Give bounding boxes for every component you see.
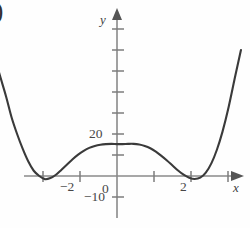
y-axis-label: y bbox=[100, 13, 106, 26]
graph-figure: ) y x 20 bbox=[0, 0, 250, 228]
y-axis-arrowhead bbox=[112, 8, 122, 20]
plot-canvas bbox=[0, 0, 250, 228]
quartic-curve bbox=[0, 50, 241, 179]
origin-label: 0 bbox=[102, 182, 109, 196]
x-axis-label: x bbox=[233, 181, 239, 194]
x-tick-label-2: 2 bbox=[180, 180, 187, 194]
y-axis-ticks bbox=[112, 29, 124, 197]
y-tick-label-20: 20 bbox=[89, 127, 103, 141]
x-tick-label-neg2: −2 bbox=[60, 180, 74, 194]
